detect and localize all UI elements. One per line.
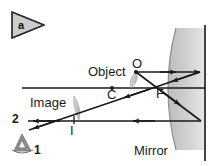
mirror-label: Mirror <box>134 144 168 157</box>
ray-label-2: 2 <box>12 113 19 125</box>
object-label: Object <box>88 65 126 78</box>
image-label: Image <box>30 96 66 109</box>
point-label-O: O <box>132 57 142 70</box>
eye-icon <box>12 134 33 153</box>
diagram-canvas <box>0 0 223 166</box>
panel-label-a: a <box>18 19 24 31</box>
point-label-I: I <box>70 124 74 137</box>
ray-label-1: 1 <box>34 144 41 156</box>
point-label-F: F <box>156 87 164 100</box>
object-arrow-shape <box>130 72 137 88</box>
ray-parallel-reflected-arrow-b <box>124 89 150 98</box>
point-label-C: C <box>107 88 116 101</box>
ray-diagram-figure: a Object O C F Image I 2 1 Mirror <box>0 0 223 166</box>
mirror-body <box>168 28 206 150</box>
panel-badge-triangle <box>12 12 44 38</box>
